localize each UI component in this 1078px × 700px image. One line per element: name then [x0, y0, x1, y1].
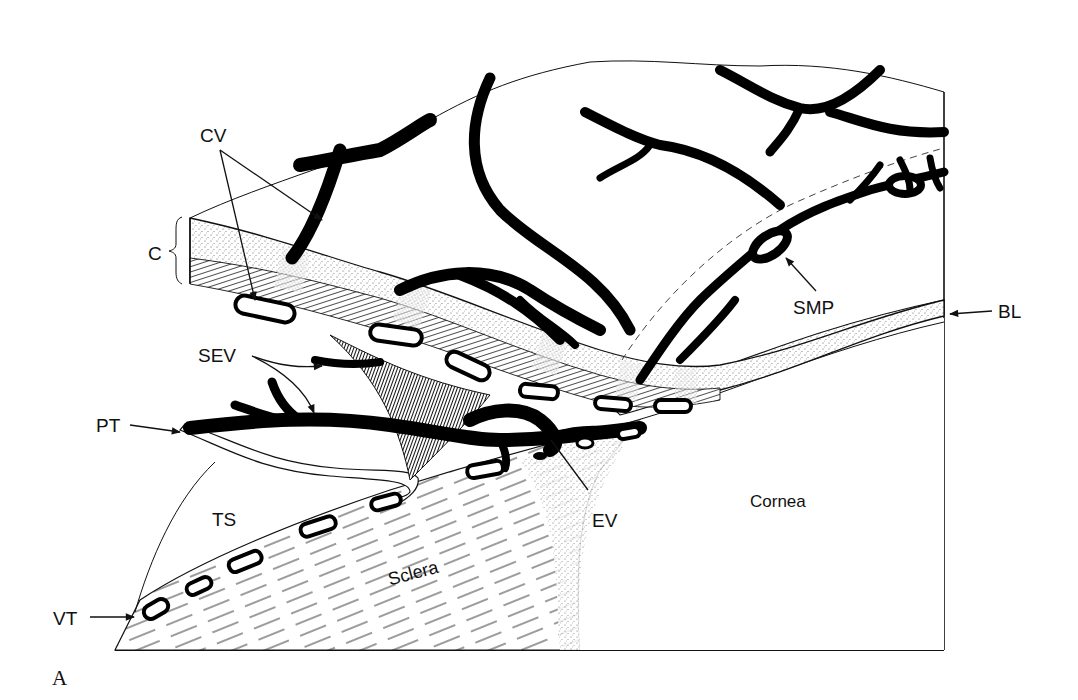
c-bracket	[169, 217, 182, 284]
label-cv: CV	[200, 125, 227, 146]
label-sev: SEV	[198, 345, 236, 366]
conjunctival-surface-outline	[190, 61, 944, 218]
label-ts: TS	[212, 509, 236, 530]
limbus-anatomy-illustration: CV C SEV PT TS VT Sclera EV Cornea SMP B…	[0, 0, 1078, 700]
label-cornea: Cornea	[750, 492, 806, 511]
label-smp: SMP	[793, 297, 834, 318]
label-c: C	[148, 243, 162, 264]
label-ev: EV	[592, 510, 618, 531]
panel-label: A	[52, 666, 68, 690]
label-vt: VT	[53, 608, 78, 629]
label-bl: BL	[998, 301, 1021, 322]
label-pt: PT	[96, 415, 121, 436]
